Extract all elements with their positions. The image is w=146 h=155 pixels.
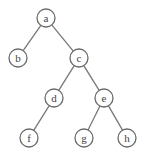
node-label: h xyxy=(124,132,130,144)
tree-node-g: g xyxy=(75,129,93,147)
node-label: f xyxy=(27,132,31,144)
node-label: c xyxy=(77,52,82,64)
edge-d-f xyxy=(34,106,49,131)
edge-c-e xyxy=(84,66,99,91)
edge-a-c xyxy=(52,25,74,51)
node-label: g xyxy=(81,132,87,144)
node-label: e xyxy=(102,92,107,104)
node-label: a xyxy=(44,12,49,24)
tree-node-c: c xyxy=(70,49,88,67)
tree-node-e: e xyxy=(95,89,113,107)
tree-diagram: abcdefgh xyxy=(0,0,146,155)
nodes-group: abcdefgh xyxy=(9,9,136,147)
tree-node-b: b xyxy=(9,49,27,67)
edge-c-d xyxy=(59,66,74,91)
node-label: d xyxy=(51,92,57,104)
edge-a-b xyxy=(23,25,41,50)
edges-group xyxy=(23,25,122,130)
tree-node-a: a xyxy=(37,9,55,27)
tree-node-h: h xyxy=(118,129,136,147)
edge-e-g xyxy=(88,106,100,130)
node-label: b xyxy=(15,52,21,64)
tree-node-f: f xyxy=(20,129,38,147)
tree-node-d: d xyxy=(45,89,63,107)
edge-e-h xyxy=(108,106,122,130)
tree-svg: abcdefgh xyxy=(0,0,146,155)
